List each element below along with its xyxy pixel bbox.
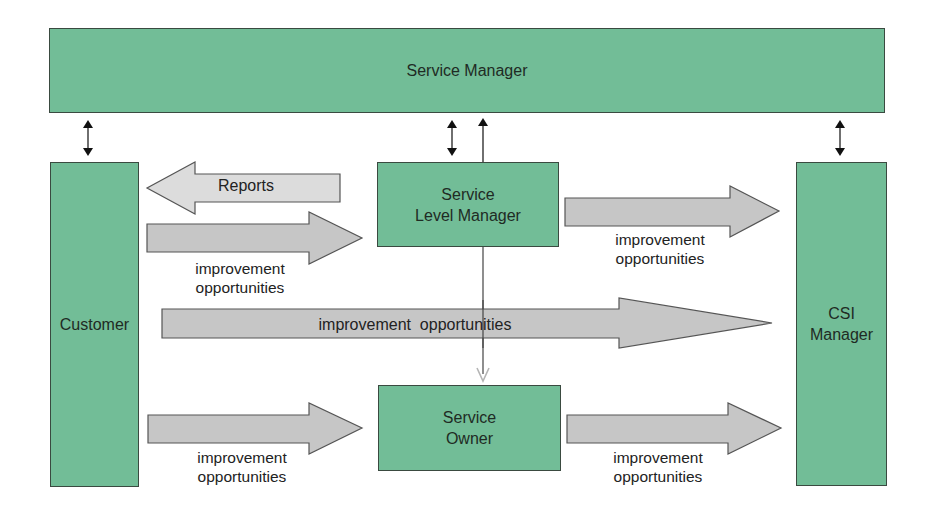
customer-box: Customer xyxy=(50,162,139,487)
service-manager-box: Service Manager xyxy=(49,28,885,113)
customer-to-owner-label: improvement opportunities xyxy=(172,448,312,486)
customer-label: Customer xyxy=(60,314,129,335)
service-owner-label: Service Owner xyxy=(443,407,496,449)
csi-manager-box: CSI Manager xyxy=(796,162,887,486)
customer-to-slm-arrow xyxy=(147,212,362,264)
owner-to-csi-arrow xyxy=(567,403,781,454)
service-level-manager-label: Service Level Manager xyxy=(415,184,521,226)
service-manager-label: Service Manager xyxy=(407,60,528,81)
csi-manager-label: CSI Manager xyxy=(810,303,873,345)
customer-to-csi-label: improvement opportunities xyxy=(280,315,550,334)
service-level-manager-box: Service Level Manager xyxy=(377,162,559,247)
service-owner-box: Service Owner xyxy=(378,385,561,471)
reports-arrow-label: Reports xyxy=(200,176,292,195)
customer-to-owner-arrow xyxy=(148,403,362,454)
owner-to-csi-label: improvement opportunities xyxy=(588,448,728,486)
customer-to-slm-label: improvement opportunities xyxy=(170,259,310,297)
csi-roles-diagram: Service Manager Customer Service Level M… xyxy=(0,0,933,521)
slm-to-csi-label: improvement opportunities xyxy=(590,230,730,268)
